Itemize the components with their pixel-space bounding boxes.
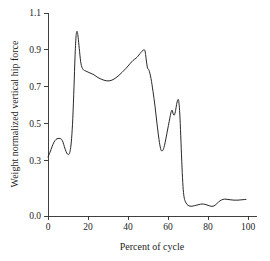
y-axis-ticks [44,13,48,216]
x-axis-ticks [48,216,248,220]
x-axis-title: Percent of cycle [120,241,185,252]
y-tick-label: 1.1 [29,8,41,18]
x-axis-tick-labels: 020406080100 [46,222,256,232]
x-tick-label: 80 [203,222,213,232]
x-tick-label: 0 [46,222,51,232]
x-tick-label: 20 [83,222,93,232]
x-tick-label: 100 [241,222,256,232]
y-tick-label: 0.5 [29,119,41,129]
y-tick-label: 0.9 [29,45,41,55]
y-tick-label: 0.3 [29,156,41,166]
x-tick-label: 40 [123,222,133,232]
hip-force-line-chart: 0.00.30.50.70.91.1 020406080100 Percent … [0,0,270,261]
figure-container: 0.00.30.50.70.91.1 020406080100 Percent … [0,0,270,261]
hip-force-curve [48,31,246,206]
y-axis-title: Weight normalized vertical hip force [9,40,20,187]
plot-axes [48,13,257,216]
y-tick-label: 0.7 [29,82,41,92]
x-tick-label: 60 [163,222,173,232]
y-tick-label: 0.0 [29,211,41,221]
y-axis-tick-labels: 0.00.30.50.70.91.1 [29,8,41,221]
